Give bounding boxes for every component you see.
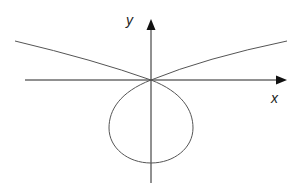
- y-axis-arrow-icon: [147, 19, 156, 30]
- y-axis-label: y: [126, 12, 133, 28]
- curve-left-branch: [15, 41, 151, 80]
- curve-right-branch: [151, 41, 287, 80]
- x-axis: [25, 76, 287, 85]
- x-axis-arrow-icon: [276, 76, 287, 85]
- x-axis-label: x: [271, 90, 278, 106]
- y-axis: [147, 19, 156, 183]
- diagram: y x: [0, 0, 301, 193]
- plot-canvas: [0, 0, 301, 193]
